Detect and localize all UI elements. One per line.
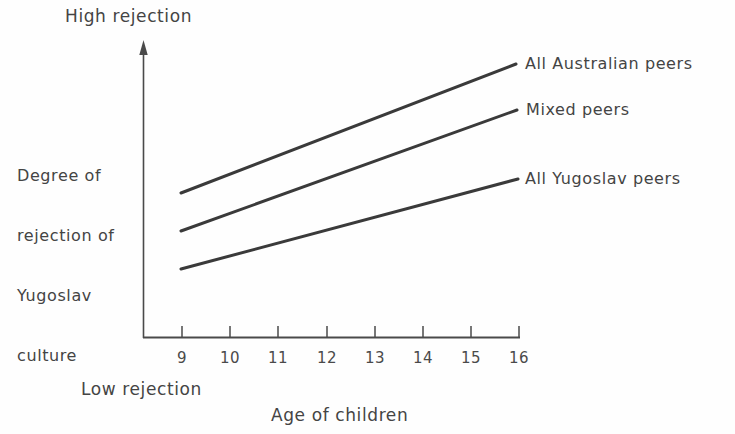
y-axis-title-line-2: rejection of <box>17 226 115 246</box>
series-label-mixed-peers: Mixed peers <box>526 100 630 119</box>
x-tick-label-12: 12 <box>312 349 342 367</box>
chart-figure: High rejection Low rejection Degree of r… <box>0 0 735 434</box>
y-axis-group <box>139 40 147 338</box>
x-tick-label-11: 11 <box>263 349 293 367</box>
y-axis-title-line-3: Yugoslav <box>17 286 115 306</box>
x-tick-label-15: 15 <box>456 349 486 367</box>
x-tick-label-9: 9 <box>167 349 197 367</box>
x-tick-label-14: 14 <box>408 349 438 367</box>
series-lines-group <box>181 64 518 269</box>
x-axis-title: Age of children <box>271 405 408 425</box>
x-tick-label-16: 16 <box>504 349 534 367</box>
x-tick-label-10: 10 <box>215 349 245 367</box>
y-axis-title: Degree of rejection of Yugoslav culture <box>17 126 115 406</box>
y-axis-high-label: High rejection <box>65 6 192 26</box>
y-axis-title-line-4: culture <box>17 346 115 366</box>
x-axis-group <box>143 326 520 338</box>
y-axis-title-line-1: Degree of <box>17 166 115 186</box>
series-label-all-australian-peers: All Australian peers <box>525 54 693 73</box>
series-label-all-yugoslav-peers: All Yugoslav peers <box>525 169 681 188</box>
series-line-all-yugoslav-peers <box>181 179 518 269</box>
up-arrow-icon <box>139 40 147 55</box>
x-tick-label-13: 13 <box>360 349 390 367</box>
